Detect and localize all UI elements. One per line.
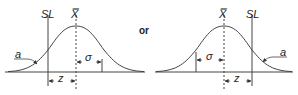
normal-distribution-figure: SL X̿ a σ z or SL X̿ a σ z: [0, 0, 298, 95]
tail-arrow-icon: [263, 57, 274, 62]
sigma-label: σ: [85, 51, 92, 63]
spec-limit-label: SL: [246, 8, 259, 20]
tail-area-label: a: [280, 46, 286, 58]
mean-label: X̿: [218, 8, 228, 20]
z-label: z: [57, 72, 64, 84]
sigma-label: σ: [206, 50, 213, 62]
right-diagram: SL X̿ a σ z: [155, 8, 293, 91]
z-label: z: [233, 72, 240, 84]
spec-limit-label: SL: [41, 8, 54, 20]
mean-label: X̿: [70, 8, 80, 20]
left-diagram: SL X̿ a σ z: [5, 8, 145, 91]
or-connector: or: [139, 25, 149, 36]
tail-area-label: a: [15, 48, 21, 60]
